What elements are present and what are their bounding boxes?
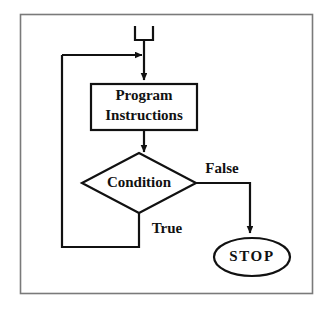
process-node-label-line2: Instructions: [105, 107, 183, 123]
process-node-label-line1: Program: [115, 87, 173, 103]
flowchart-canvas: Program Instructions Condition False Tru…: [0, 0, 333, 309]
process-node: Program Instructions: [91, 84, 197, 130]
stop-node: STOP: [214, 238, 290, 276]
edge-label-false: False: [205, 160, 239, 176]
flowchart-svg: Program Instructions Condition False Tru…: [0, 0, 333, 309]
edge-label-true: True: [152, 220, 183, 236]
stop-node-label: STOP: [229, 248, 274, 264]
decision-node-label: Condition: [107, 174, 172, 190]
